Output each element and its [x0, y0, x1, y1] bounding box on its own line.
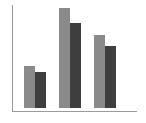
bar-chart — [0, 0, 146, 123]
bar-series1-group1 — [24, 66, 35, 108]
x-axis — [12, 111, 137, 112]
y-axis — [12, 5, 13, 112]
bar-series1-group3 — [94, 35, 105, 108]
bar-series1-group2 — [59, 8, 70, 108]
bar-series2-group1 — [35, 72, 46, 108]
bar-series2-group2 — [70, 23, 81, 108]
bar-series2-group3 — [105, 46, 116, 108]
